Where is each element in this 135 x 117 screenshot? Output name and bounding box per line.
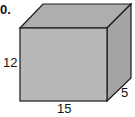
rectangular-prism-diagram <box>0 0 135 117</box>
height-label: 12 <box>3 55 17 70</box>
length-label: 15 <box>57 101 71 116</box>
prism-front-face <box>20 28 107 101</box>
depth-label: 5 <box>121 85 128 100</box>
